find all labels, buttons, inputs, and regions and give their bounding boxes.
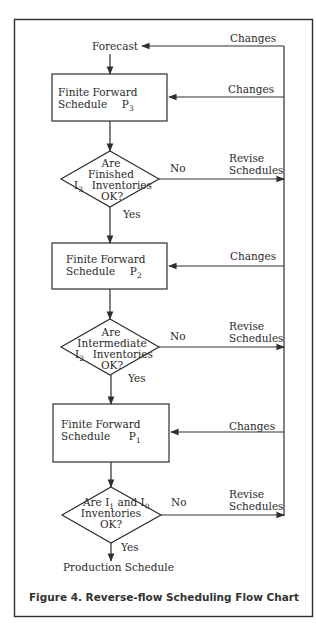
p1-subscript: 1 (136, 436, 141, 445)
d2-revise-line1: Revise (229, 320, 264, 332)
d3-revise-line1: Revise (229, 488, 264, 500)
d3-i0-subscript: 0 (145, 502, 150, 511)
changes-forecast-label: Changes (230, 32, 276, 44)
changes-p2-label: Changes (230, 250, 276, 262)
d3-line3: OK? (100, 518, 122, 530)
d3-revise-line2: Schedules (229, 500, 284, 512)
p1-symbol: P (129, 430, 136, 442)
d2-revise-line2: Schedules (229, 332, 284, 344)
production-schedule-label: Production Schedule (63, 561, 174, 573)
d1-no-label: No (170, 162, 186, 174)
d2-yes-label: Yes (128, 372, 146, 384)
figure-caption: Figure 4. Reverse-flow Scheduling Flow C… (29, 591, 299, 603)
d2-line4: OK? (101, 359, 123, 371)
p3-subscript: 3 (129, 104, 134, 113)
d2-no-label: No (170, 330, 186, 342)
p2-schedule-text: Schedule (66, 265, 115, 277)
forecast-label: Forecast (92, 40, 138, 52)
p3-line2: Schedule P3 (58, 98, 134, 112)
p2-line1: Finite Forward (66, 253, 146, 265)
d1-revise-line2: Schedules (229, 164, 284, 176)
p2-subscript: 2 (137, 271, 142, 280)
d1-i-subscript: 3 (78, 185, 83, 194)
p1-line1: Finite Forward (61, 418, 141, 430)
changes-p3-label: Changes (228, 83, 274, 95)
d3-yes-label: Yes (121, 541, 139, 553)
flowchart-figure: Forecast Changes Changes Changes Changes… (0, 0, 316, 630)
p3-line1: Finite Forward (58, 86, 138, 98)
p1-schedule-text: Schedule (61, 430, 110, 442)
d2-i-subscript: 2 (79, 354, 84, 363)
p2-symbol: P (130, 265, 137, 277)
d1-line4: OK? (101, 190, 123, 202)
p1-line2: Schedule P1 (61, 430, 141, 444)
p3-schedule-text: Schedule (58, 98, 107, 110)
changes-p1-label: Changes (229, 420, 275, 432)
p3-symbol: P (122, 98, 129, 110)
d1-yes-label: Yes (123, 208, 141, 220)
d3-no-label: No (171, 496, 187, 508)
p2-line2: Schedule P2 (66, 265, 142, 279)
d1-revise-line1: Revise (229, 152, 264, 164)
